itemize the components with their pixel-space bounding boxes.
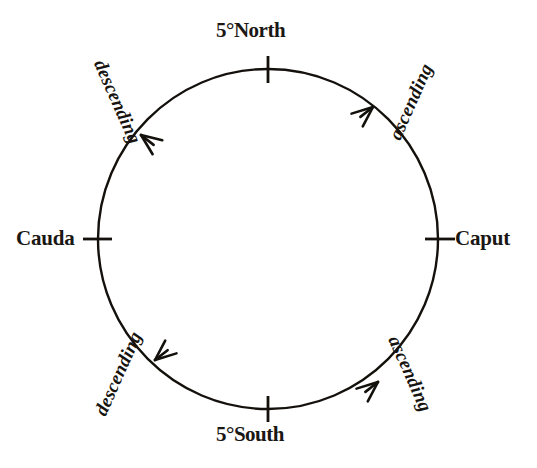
lunar-node-diagram: 5°North Caput 5°South Cauda ascending de… bbox=[0, 0, 537, 468]
cardinal-label-south: 5°South bbox=[216, 424, 284, 445]
cardinal-label-north: 5°North bbox=[216, 20, 285, 41]
circle-group bbox=[98, 69, 438, 409]
arrowhead-se-icon bbox=[357, 376, 384, 402]
arrowhead-ne-icon bbox=[352, 101, 379, 127]
cardinal-label-cauda: Cauda bbox=[16, 228, 75, 249]
arrowhead-sw-icon bbox=[149, 340, 176, 366]
arrowhead-group bbox=[136, 101, 383, 402]
node-circle bbox=[98, 69, 438, 409]
cardinal-label-caput: Caput bbox=[455, 228, 510, 249]
